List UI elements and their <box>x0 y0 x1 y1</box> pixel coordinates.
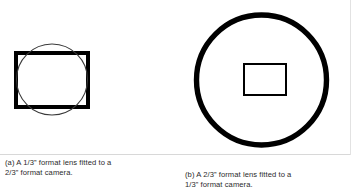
caption-a: (a) A 1/3” format lens fitted to a 2/3” … <box>0 158 185 179</box>
diagram-b-artwork <box>176 0 351 155</box>
figure-panel-b: (b) A 2/3” format lens fitted to a 1/3” … <box>176 0 351 192</box>
caption-b: (b) A 2/3” format lens fitted to a 1/3” … <box>176 170 351 191</box>
diagram-a-svg <box>0 0 176 155</box>
figure-panel-a: (a) A 1/3” format lens fitted to a 2/3” … <box>0 0 176 192</box>
diagram-b-svg <box>176 0 351 155</box>
sensor-rectangle-a <box>16 53 88 107</box>
lens-image-circle-b <box>197 15 327 145</box>
figure-sheet: (a) A 1/3” format lens fitted to a 2/3” … <box>0 0 351 192</box>
sensor-rectangle-b <box>244 64 286 95</box>
diagram-a-artwork <box>0 0 176 155</box>
